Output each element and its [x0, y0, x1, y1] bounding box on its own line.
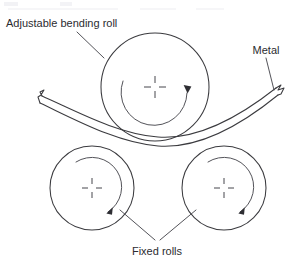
- metal-sheet-bottom-edge: [40, 95, 278, 146]
- label-adjustable-bending-roll: Adjustable bending roll: [6, 17, 117, 29]
- leader-adjustable-bending-roll: [77, 32, 104, 58]
- label-metal: Metal: [253, 44, 280, 56]
- leader-fixed-roll-left: [120, 210, 155, 240]
- metal-sheet: [38, 85, 284, 146]
- scan-artifact-top: [4, 2, 224, 10]
- metal-sheet-top-edge: [42, 88, 276, 137]
- metal-sheet-right-torn-end: [276, 85, 284, 95]
- adjustable-bending-roll-outline: [101, 33, 209, 141]
- adjustable-bending-roll-crosshair: [144, 76, 166, 98]
- roll-bending-diagram: Adjustable bending roll Metal Fixed roll…: [0, 0, 292, 266]
- fixed-roll-left-crosshair: [82, 178, 102, 198]
- fixed-roll-right-rotation-arrow: [208, 157, 254, 214]
- diagram-canvas: Adjustable bending roll Metal Fixed roll…: [0, 0, 292, 266]
- fixed-roll-right: [182, 146, 266, 230]
- adjustable-bending-roll-rotation-arrow: [121, 81, 191, 125]
- label-fixed-rolls: Fixed rolls: [132, 245, 183, 257]
- fixed-roll-left: [50, 146, 134, 230]
- adjustable-bending-roll: [101, 33, 209, 141]
- leader-metal: [266, 58, 274, 90]
- leader-fixed-roll-right: [160, 210, 196, 240]
- fixed-roll-right-crosshair: [214, 178, 234, 198]
- fixed-roll-left-rotation-arrow: [76, 157, 122, 214]
